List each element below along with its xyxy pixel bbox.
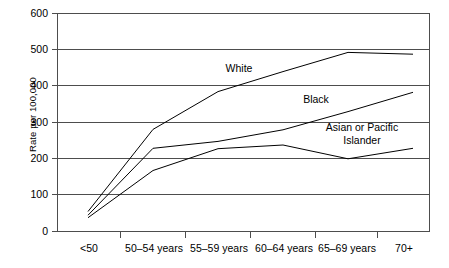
series-line-black — [88, 92, 413, 215]
x-tick-label-65-69-years: 65–69 years — [314, 243, 380, 254]
series-label-asian-pacific-line2: Islander — [314, 134, 410, 146]
y-tick-label-500: 500 — [14, 44, 48, 55]
y-tick-label-400: 400 — [14, 80, 48, 91]
y-tick-marks — [52, 14, 57, 232]
series-label-white: White — [216, 62, 262, 74]
x-tick-marks — [121, 231, 378, 238]
y-tick-label-600: 600 — [14, 8, 48, 19]
series-label-asian-pacific-line1: Asian or Pacific — [314, 121, 410, 133]
y-tick-label-300: 300 — [14, 117, 48, 128]
y-tick-label-200: 200 — [14, 153, 48, 164]
x-tick-label-50-54-years: 50–54 years — [121, 243, 187, 254]
x-tick-label-70-plus: 70+ — [378, 243, 430, 254]
y-tick-label-0: 0 — [14, 226, 48, 237]
x-tick-label-under-50: <50 — [61, 243, 117, 254]
series-label-black: Black — [294, 93, 338, 105]
x-tick-label-55-59-years: 55–59 years — [186, 243, 252, 254]
series-line-asian-or-pacific-islander — [88, 145, 413, 218]
x-tick-label-60-64-years: 60–64 years — [251, 243, 317, 254]
chart-container: Rate per 100,000 600 500 400 300 200 100… — [0, 0, 449, 268]
y-tick-label-100: 100 — [14, 189, 48, 200]
